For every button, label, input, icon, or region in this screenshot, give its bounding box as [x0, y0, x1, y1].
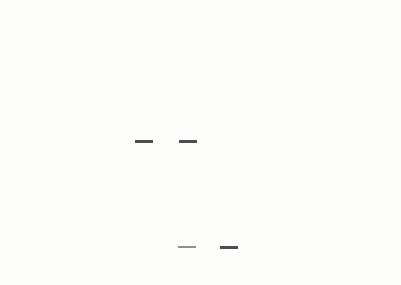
- legend-swatch-consumption: [179, 140, 197, 143]
- chart-page: [0, 0, 401, 285]
- legend-bottom-chart: [178, 246, 242, 249]
- legend-swatch-import: [220, 246, 238, 249]
- legend-top-chart: [135, 140, 201, 143]
- legend-swatch-export: [178, 246, 196, 248]
- legend-swatch-generation: [135, 140, 153, 143]
